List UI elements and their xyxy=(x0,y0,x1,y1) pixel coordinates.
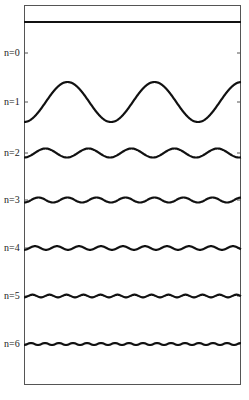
mode-label: n=1 xyxy=(4,97,20,107)
wave-mode-6 xyxy=(24,343,241,345)
mode-label: n=3 xyxy=(4,195,20,205)
mode-label: n=0 xyxy=(4,48,20,58)
mode-label: n=2 xyxy=(4,148,20,158)
wave-mode-4 xyxy=(24,246,241,250)
wave-mode-1 xyxy=(24,82,241,122)
wave-mode-3 xyxy=(24,198,241,203)
mode-label: n=5 xyxy=(4,291,20,301)
wave-mode-5 xyxy=(24,295,241,298)
mode-label: n=6 xyxy=(4,339,20,349)
wave-mode-2 xyxy=(24,149,241,158)
mode-label: n=4 xyxy=(4,243,20,253)
wave-plot xyxy=(0,0,249,400)
